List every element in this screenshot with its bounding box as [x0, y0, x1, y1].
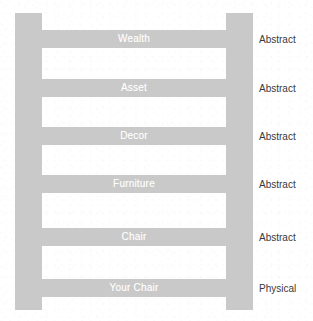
rung-label: Chair [122, 232, 147, 242]
ladder-rung: Furniture [15, 175, 253, 193]
ladder-rung: Decor [15, 127, 253, 145]
side-label-abstract: Abstract [259, 35, 296, 45]
side-label-abstract: Abstract [259, 132, 296, 142]
ladder-rung: Your Chair [15, 279, 253, 297]
side-label-abstract: Abstract [259, 180, 296, 190]
rung-label: Asset [121, 83, 147, 93]
side-label-abstract: Abstract [259, 84, 296, 94]
ladder-left-rail [15, 13, 42, 310]
ladder-graphic: Wealth Asset Decor Furniture Chair Your … [0, 0, 313, 321]
rung-label: Your Chair [110, 283, 159, 293]
ladder-rung: Wealth [15, 30, 253, 48]
rung-label: Wealth [118, 34, 150, 44]
ladder-rung: Asset [15, 79, 253, 97]
abstraction-ladder-figure: Wealth Asset Decor Furniture Chair Your … [0, 0, 313, 321]
side-label-physical: Physical [259, 284, 296, 294]
ladder-right-rail [226, 13, 253, 310]
rung-label: Furniture [113, 179, 155, 189]
side-label-abstract: Abstract [259, 233, 296, 243]
ladder-rung: Chair [15, 228, 253, 246]
rung-label: Decor [120, 131, 148, 141]
